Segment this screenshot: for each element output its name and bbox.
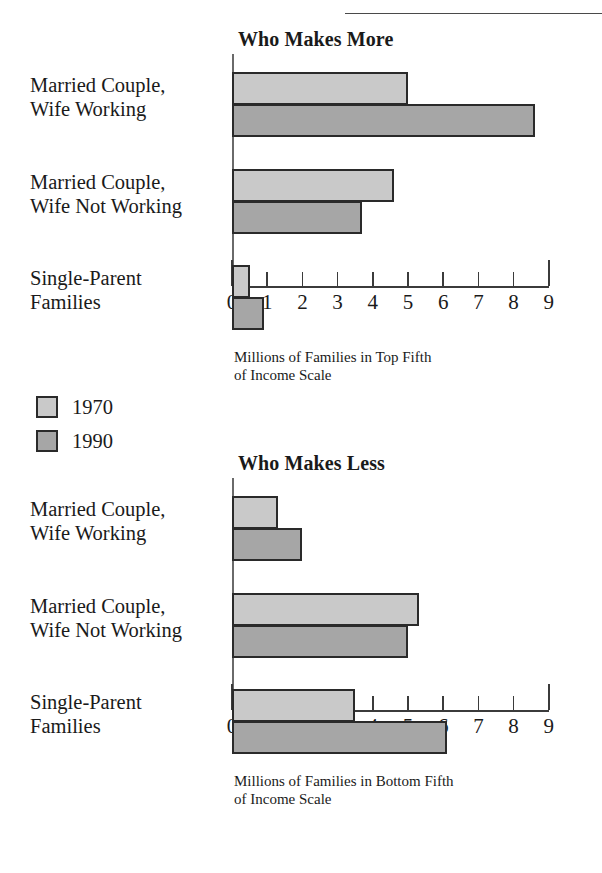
x-axis-tick-label: 9: [544, 716, 555, 737]
category-label-line2: Families: [30, 291, 230, 315]
category-label-line2: Families: [30, 715, 230, 739]
x-axis-tick: [478, 272, 480, 286]
x-axis-tick: [372, 696, 374, 710]
x-axis-tick-label: 6: [438, 292, 449, 313]
x-axis-tick: [442, 696, 444, 710]
x-axis-tick-label: 2: [297, 292, 308, 313]
x-axis-tick: [442, 272, 444, 286]
x-axis-tick-label: 3: [332, 292, 343, 313]
x-axis-tick: [337, 272, 339, 286]
category-label-line1: Married Couple,: [30, 74, 230, 98]
plot-area-top: 0123456789: [232, 54, 550, 282]
bar: [232, 593, 419, 626]
x-axis-caption-line1: Millions of Families in Bottom Fifth: [234, 772, 534, 790]
x-axis-tick-label: 9: [544, 292, 555, 313]
chart-title: Who Makes More: [238, 28, 393, 51]
bar: [232, 689, 355, 722]
legend-item-1990: 1990: [36, 424, 113, 458]
bar: [232, 201, 362, 234]
legend: 1970 1990: [36, 390, 113, 458]
category-label-line2: Wife Not Working: [30, 195, 230, 219]
category-label-married-wife-working: Married Couple, Wife Working: [30, 498, 230, 546]
x-axis-tick-label: 8: [508, 716, 519, 737]
bar: [232, 625, 408, 658]
bar: [232, 496, 278, 529]
x-axis-caption-line2: of Income Scale: [234, 790, 534, 808]
x-axis-caption: Millions of Families in Top Fifth of Inc…: [234, 348, 534, 385]
figure-page: Who Makes More Married Couple, Wife Work…: [0, 0, 602, 873]
legend-label-1990: 1990: [72, 431, 113, 452]
category-label-single-parent: Single-Parent Families: [30, 267, 230, 315]
x-axis-tick: [372, 272, 374, 286]
category-label-line2: Wife Working: [30, 98, 230, 122]
x-axis-tick: [407, 696, 409, 710]
category-label-married-wife-not-working: Married Couple, Wife Not Working: [30, 595, 230, 643]
category-label-line2: Wife Not Working: [30, 619, 230, 643]
bar: [232, 169, 394, 202]
x-axis-tick: [548, 684, 550, 710]
x-axis-tick: [513, 696, 515, 710]
x-axis-tick: [407, 272, 409, 286]
category-label-married-wife-working: Married Couple, Wife Working: [30, 74, 230, 122]
category-label-line1: Married Couple,: [30, 171, 230, 195]
chart-title: Who Makes Less: [238, 452, 385, 475]
category-label-line1: Single-Parent: [30, 267, 230, 291]
category-label-line1: Single-Parent: [30, 691, 230, 715]
x-axis-line: [232, 286, 549, 288]
x-axis-tick: [302, 272, 304, 286]
x-axis-tick-label: 8: [508, 292, 519, 313]
bar: [232, 721, 447, 754]
bar: [232, 265, 250, 298]
x-axis-tick-label: 7: [473, 292, 484, 313]
bar: [232, 72, 408, 105]
x-axis-caption-line1: Millions of Families in Top Fifth: [234, 348, 534, 366]
x-axis-tick: [548, 260, 550, 286]
bar: [232, 297, 264, 330]
category-label-single-parent: Single-Parent Families: [30, 691, 230, 739]
x-axis-tick-label: 7: [473, 716, 484, 737]
x-axis-tick: [513, 272, 515, 286]
x-axis-caption: Millions of Families in Bottom Fifth of …: [234, 772, 534, 809]
plot-area-bottom: 0123456789: [232, 478, 550, 706]
legend-item-1970: 1970: [36, 390, 113, 424]
legend-swatch-icon-1970: [36, 396, 58, 418]
x-axis-caption-line2: of Income Scale: [234, 366, 534, 384]
page-top-rule: [345, 13, 602, 14]
x-axis-tick-label: 4: [368, 292, 379, 313]
category-label-line2: Wife Working: [30, 522, 230, 546]
bar: [232, 528, 302, 561]
legend-swatch-icon-1990: [36, 430, 58, 452]
x-axis-tick-label: 5: [403, 292, 414, 313]
x-axis-tick: [478, 696, 480, 710]
category-label-married-wife-not-working: Married Couple, Wife Not Working: [30, 171, 230, 219]
category-label-line1: Married Couple,: [30, 498, 230, 522]
bar: [232, 104, 535, 137]
legend-label-1970: 1970: [72, 397, 113, 418]
category-label-line1: Married Couple,: [30, 595, 230, 619]
x-axis-tick: [266, 272, 268, 286]
